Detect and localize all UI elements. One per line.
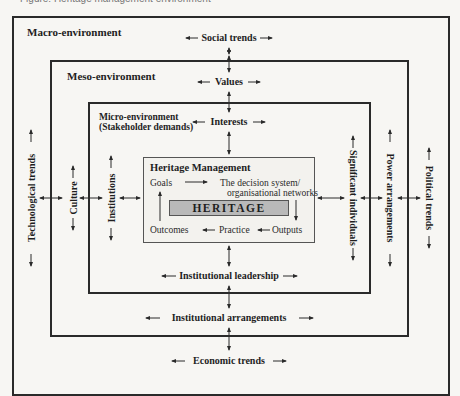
management-cycle-arrows <box>160 182 296 230</box>
